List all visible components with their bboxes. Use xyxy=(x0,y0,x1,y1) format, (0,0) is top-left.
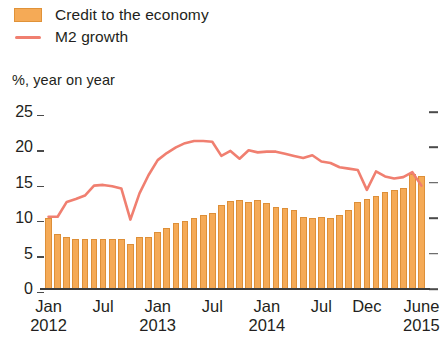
x-axis-month-label: Jan xyxy=(144,297,171,315)
x-axis-tick-label: Jul xyxy=(311,297,332,316)
x-axis-tick-label: Jan2013 xyxy=(139,297,176,335)
x-axis-labels: Jan2012JulJan2013JulJan2014JulDecJune201… xyxy=(0,297,447,339)
m2-growth-polyline xyxy=(49,141,422,220)
y-axis-tick-label: 25 xyxy=(15,104,33,120)
x-axis-year-label: 2014 xyxy=(248,316,285,335)
x-axis-month-label: Dec xyxy=(352,297,381,315)
x-axis-month-label: June xyxy=(404,297,440,315)
chart-legend: Credit to the economy M2 growth xyxy=(14,4,434,48)
y-axis-tick: 10 xyxy=(0,210,44,226)
y-axis-unit-caption: %, year on year xyxy=(12,72,115,88)
legend-label-credit: Credit to the economy xyxy=(55,7,209,23)
x-axis-month-label: Jul xyxy=(93,297,114,315)
line-series-m2-growth xyxy=(44,112,426,289)
y-axis-tick-label: 20 xyxy=(15,139,33,155)
x-axis-tick-label: Jan2012 xyxy=(30,297,67,335)
chart-plot-area: 0510152025 xyxy=(44,112,426,289)
y-axis-tick-mark xyxy=(37,115,44,117)
right-axis-tick-mark xyxy=(429,288,438,290)
legend-item-m2: M2 growth xyxy=(14,26,434,48)
x-axis-tick-label: Dec xyxy=(352,297,381,316)
y-axis-tick-mark xyxy=(37,292,44,294)
y-axis-tick-label: 5 xyxy=(24,246,33,262)
x-axis-month-label: Jul xyxy=(202,297,223,315)
x-axis-tick-label: Jul xyxy=(93,297,114,316)
y-axis-tick-label: 0 xyxy=(24,281,33,297)
x-axis-tick-label: Jan2014 xyxy=(248,297,285,335)
y-axis-tick-label: 10 xyxy=(15,210,33,226)
y-axis-tick: 5 xyxy=(0,246,44,262)
x-axis-month-label: Jan xyxy=(254,297,281,315)
y-axis-tick: 0 xyxy=(0,281,44,297)
right-axis-tick-mark xyxy=(429,217,438,219)
x-axis-year-label: 2012 xyxy=(30,316,67,335)
legend-label-m2: M2 growth xyxy=(55,29,128,45)
x-axis-baseline xyxy=(40,288,430,290)
y-axis-tick: 20 xyxy=(0,139,44,155)
x-axis-tick-label: Jul xyxy=(202,297,223,316)
x-axis-year-label: 2013 xyxy=(139,316,176,335)
y-axis-tick: 25 xyxy=(0,104,44,120)
line-swatch-icon xyxy=(14,30,42,44)
right-axis-tick-mark xyxy=(429,111,438,113)
x-axis-month-label: Jan xyxy=(35,297,62,315)
right-axis-tick-mark xyxy=(429,253,438,255)
y-axis-tick-label: 15 xyxy=(15,175,33,191)
y-axis-tick-mark xyxy=(37,256,44,258)
plot-inner: 0510152025 xyxy=(44,112,426,289)
y-axis-tick-mark xyxy=(37,221,44,223)
x-axis-tick-label: June2015 xyxy=(403,297,440,335)
x-axis-month-label: Jul xyxy=(311,297,332,315)
y-axis-tick: 15 xyxy=(0,175,44,191)
right-axis-tick-mark xyxy=(429,147,438,149)
right-axis-tick-mark xyxy=(429,182,438,184)
x-axis-year-label: 2015 xyxy=(403,316,440,335)
y-axis-tick-mark xyxy=(37,150,44,152)
y-axis-tick-mark xyxy=(37,186,44,188)
legend-item-credit: Credit to the economy xyxy=(14,4,434,26)
bar-swatch-icon xyxy=(14,8,42,22)
